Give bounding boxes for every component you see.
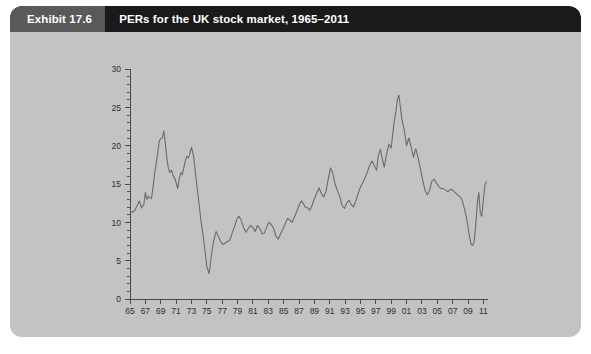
- y-tick-label: 30: [112, 64, 122, 74]
- y-tick-label: 10: [112, 218, 122, 228]
- x-tick-label: 07: [448, 306, 458, 316]
- x-tick-label: 67: [141, 306, 151, 316]
- x-tick-label: 95: [356, 306, 366, 316]
- series-path: [130, 95, 486, 274]
- x-tick-label: 81: [248, 306, 258, 316]
- exhibit-number-badge: Exhibit 17.6: [10, 6, 105, 32]
- x-tick-label: 65: [125, 306, 135, 316]
- x-tick-label: 69: [156, 306, 166, 316]
- y-axis: 051015202530: [112, 64, 130, 304]
- line-chart: 051015202530 656769717375777981838587899…: [10, 32, 581, 337]
- x-tick-label: 83: [264, 306, 274, 316]
- x-tick-label: 11: [479, 306, 488, 316]
- x-tick-label: 01: [402, 306, 412, 316]
- x-tick-label: 89: [310, 306, 320, 316]
- x-tick-label: 05: [433, 306, 443, 316]
- y-tick-label: 5: [116, 256, 121, 266]
- x-tick-label: 71: [171, 306, 181, 316]
- exhibit-card: Exhibit 17.6 PERs for the UK stock marke…: [10, 6, 581, 337]
- x-tick-label: 93: [340, 306, 350, 316]
- x-axis: 6567697173757779818385878991939597990103…: [125, 299, 488, 316]
- x-tick-label: 75: [202, 306, 212, 316]
- x-tick-label: 97: [371, 306, 381, 316]
- x-tick-label: 03: [417, 306, 427, 316]
- y-tick-label: 20: [112, 141, 122, 151]
- x-tick-label: 91: [325, 306, 335, 316]
- x-tick-label: 73: [187, 306, 197, 316]
- chart-plot-region: 051015202530 656769717375777981838587899…: [10, 32, 581, 337]
- x-tick-label: 09: [463, 306, 473, 316]
- x-tick-label: 87: [294, 306, 304, 316]
- x-tick-label: 85: [279, 306, 289, 316]
- x-tick-label: 99: [386, 306, 396, 316]
- exhibit-title: PERs for the UK stock market, 1965–2011: [105, 6, 349, 32]
- y-tick-label: 15: [112, 179, 122, 189]
- exhibit-header-bar: Exhibit 17.6 PERs for the UK stock marke…: [10, 6, 581, 32]
- y-tick-label: 25: [112, 103, 122, 113]
- y-tick-label: 0: [116, 294, 121, 304]
- data-series-group: [130, 95, 486, 274]
- x-tick-label: 77: [217, 306, 227, 316]
- x-tick-label: 79: [233, 306, 243, 316]
